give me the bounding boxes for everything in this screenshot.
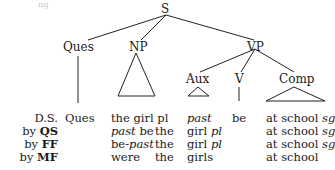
mf-np: were: [111, 151, 140, 164]
node-ques: Ques: [63, 41, 94, 54]
node-comp: Comp: [279, 73, 314, 86]
node-aux: Aux: [186, 73, 209, 86]
mf-aux: girls: [187, 151, 213, 164]
ds-v: be: [232, 112, 246, 125]
node-v: V: [235, 73, 244, 86]
node-s: S: [161, 3, 169, 16]
ds-ques: Ques: [65, 112, 95, 125]
row-label-mf: by MF: [8, 151, 58, 164]
mf-comp: at school: [266, 151, 318, 164]
mf-np-the: the: [155, 151, 174, 164]
node-vp: VP: [247, 41, 264, 54]
node-np: NP: [129, 41, 148, 54]
